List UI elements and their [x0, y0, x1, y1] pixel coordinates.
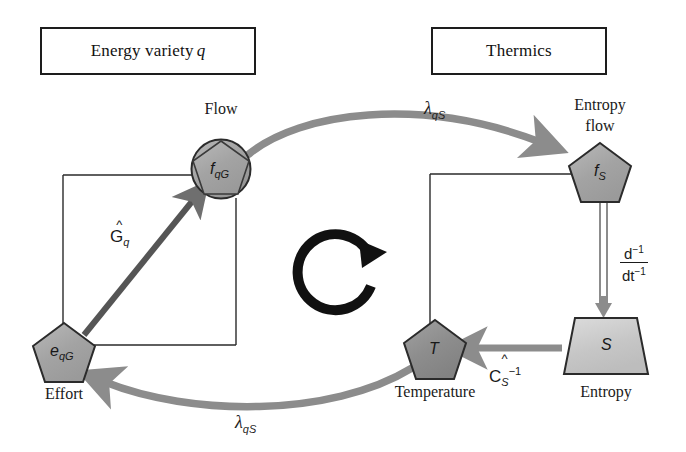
derivative-den-sup: −1: [635, 266, 646, 277]
node-entropy[interactable]: [564, 318, 648, 374]
derivative-num-sup: −1: [632, 244, 643, 255]
right-frame-lines: [430, 174, 575, 326]
caption-entropy-flow-line2: flow: [556, 117, 644, 135]
derivative-denominator: dt−1: [620, 262, 648, 283]
derivative-arrow: [595, 200, 612, 318]
header-energy-variety-label: Energy variety: [91, 41, 194, 61]
lambda-bottom-arrow: [105, 368, 412, 407]
derivative-numerator: d−1: [620, 242, 648, 262]
caption-effort: Effort: [29, 385, 99, 403]
left-frame-lines: [63, 175, 236, 345]
cycle-arrow-icon: [298, 234, 387, 310]
header-energy-variety-symbol: q: [194, 41, 206, 61]
caption-entropy-flow-line1: Entropy: [556, 96, 644, 114]
header-box-energy-variety: Energy variety q: [40, 27, 256, 75]
c-operator-sub: S: [501, 376, 508, 388]
caption-temperature: Temperature: [379, 383, 491, 401]
g-operator-base-wrap: Gq: [110, 228, 129, 251]
g-operator-arrow: [84, 199, 194, 335]
edge-label-lambda-bottom-base: λ: [235, 412, 243, 432]
caption-flow: Flow: [183, 100, 259, 118]
header-box-thermics: Thermics: [431, 27, 607, 75]
edge-label-derivative: d−1 dt−1: [620, 242, 648, 283]
edge-label-lambda-top-sub: qS: [432, 109, 445, 121]
edge-label-g-operator: ^ Gq: [110, 221, 129, 251]
lambda-top-arrow: [249, 114, 540, 154]
node-entropy-flow[interactable]: [569, 143, 631, 202]
c-operator-base-wrap: CS−1: [489, 362, 521, 391]
node-temperature[interactable]: [404, 320, 466, 379]
edge-label-lambda-bottom: λqS: [235, 412, 256, 435]
edge-label-c-operator: ^ CS−1: [489, 355, 521, 391]
derivative-den-base: dt: [622, 267, 635, 284]
caption-entropy: Entropy: [562, 383, 650, 401]
header-thermics-label: Thermics: [486, 41, 552, 61]
edge-label-lambda-top-base: λ: [424, 98, 432, 118]
edge-label-lambda-top: λqS: [424, 98, 445, 121]
edge-label-lambda-bottom-sub: qS: [243, 423, 256, 435]
diagram-canvas: Energy variety q Thermics Flow Entropy f…: [0, 0, 686, 452]
c-operator-hat: ^: [488, 355, 521, 362]
g-operator-sub: q: [123, 236, 129, 248]
c-operator-base: C: [489, 367, 501, 386]
g-operator-base: G: [110, 227, 123, 246]
node-flow[interactable]: [192, 140, 251, 199]
c-operator-sup: −1: [509, 365, 522, 377]
